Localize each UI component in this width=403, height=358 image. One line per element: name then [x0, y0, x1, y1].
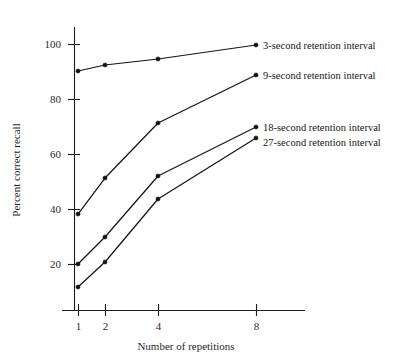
y-axis-title: Percent correct recall [10, 123, 22, 216]
data-point [254, 125, 258, 129]
y-tick-label-20: 20 [50, 258, 62, 270]
y-tick-label-60: 60 [50, 148, 62, 160]
y-tick-label-80: 80 [50, 93, 62, 105]
data-point [156, 121, 160, 125]
series-points-9-second [76, 73, 258, 216]
series-line-18-second [78, 127, 256, 264]
data-point [76, 69, 80, 73]
data-point [103, 176, 107, 180]
series-label-27-second: 27-second retention interval [263, 137, 381, 148]
series-label-9-second: 9-second retention interval [263, 70, 376, 81]
data-point [76, 262, 80, 266]
data-point [76, 285, 80, 289]
chart-figure: 100 80 60 40 20 1 2 4 8 Number of repeti… [0, 0, 403, 358]
data-point [254, 136, 258, 140]
series-points-18-second [76, 125, 258, 266]
x-axis-title: Number of repetitions [137, 340, 234, 352]
data-point [76, 212, 80, 216]
data-point [103, 63, 107, 67]
line-chart-canvas: 100 80 60 40 20 1 2 4 8 Number of repeti… [0, 0, 403, 358]
series-label-18-second: 18-second retention interval [263, 122, 381, 133]
x-tick-label-2: 2 [103, 320, 109, 332]
series-points-27-second [76, 136, 258, 289]
y-tick-label-100: 100 [45, 38, 62, 50]
data-point [254, 43, 258, 47]
data-point [156, 197, 160, 201]
y-tick-label-40: 40 [50, 203, 62, 215]
series-label-3-second: 3-second retention interval [263, 40, 376, 51]
data-point [156, 57, 160, 61]
data-point [156, 174, 160, 178]
series-line-27-second [78, 138, 256, 287]
x-tick-label-4: 4 [156, 320, 162, 332]
x-tick-label-8: 8 [254, 320, 260, 332]
data-point [103, 235, 107, 239]
x-tick-label-1: 1 [76, 320, 82, 332]
data-point [254, 73, 258, 77]
data-point [103, 260, 107, 264]
